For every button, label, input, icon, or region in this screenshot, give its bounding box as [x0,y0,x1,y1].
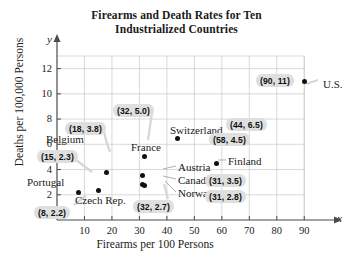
value-callout: (31, 3.5) [205,174,246,187]
country-label: Austria [178,161,210,173]
x-tick-label: 90 [295,225,313,236]
y-tick-label: 12 [35,63,52,74]
value-callout: (32, 2.7) [133,200,174,213]
value-callout: (15, 2.3) [37,150,78,163]
callout-connector [104,132,110,152]
x-tick-label: 80 [268,225,286,236]
callout-connector [148,113,152,140]
chart-figure: Firearms and Death Rates for Ten Industr… [0,0,353,258]
data-point [175,136,180,141]
value-callout: (90, 11) [256,74,294,87]
country-label: Finland [228,155,262,167]
value-callout: (18, 3.8) [65,122,106,135]
callout-connector [164,184,168,199]
x-tick-label: 70 [240,225,258,236]
country-label: Czech Rep. [75,194,126,206]
callout-connector [306,80,318,84]
x-tick-label: 20 [103,225,121,236]
value-callout: (44, 6.5) [226,118,267,131]
x-tick-label: 30 [130,225,148,236]
leader-line [163,176,176,179]
leader-line [163,166,176,169]
x-axis-arrow [334,217,342,224]
x-tick-label: 10 [75,225,93,236]
y-tick-label: 4 [35,164,52,175]
data-point [214,161,219,166]
value-callout: (8, 2.2) [34,206,70,219]
data-point [104,170,109,175]
data-point [302,79,307,84]
country-label: France [131,141,161,153]
y-tick-label: 8 [35,113,52,124]
y-tick-label: 2 [35,189,52,200]
country-label: Portugal [27,176,64,188]
callout-connector [76,160,92,172]
x-tick-label: 60 [213,225,231,236]
y-tick-label: 10 [35,88,52,99]
x-tick-label: 40 [158,225,176,236]
value-callout: (31, 2.8) [205,190,246,203]
x-tick-label: 50 [185,225,203,236]
y-axis-arrow [54,34,61,42]
country-label: U.S. [323,78,343,90]
value-callout: (58, 4.5) [209,133,250,146]
value-callout: (32, 5.0) [113,104,154,117]
